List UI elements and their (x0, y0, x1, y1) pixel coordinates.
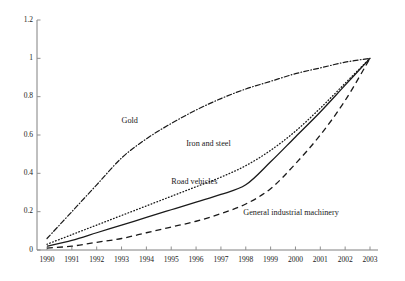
x-tick-label: 1991 (64, 255, 79, 264)
x-tick-label: 2000 (288, 255, 303, 264)
x-tick-label: 2002 (338, 255, 353, 264)
y-tick-label: 1.2 (24, 15, 34, 24)
annotation-road-vehicles: Road vehicles (171, 177, 217, 186)
x-tick-label: 1994 (139, 255, 154, 264)
x-tick-label: 1995 (164, 255, 179, 264)
y-axis: 00.20.40.60.811.2 (24, 15, 41, 254)
annotation-gold: Gold (122, 116, 138, 125)
y-tick-label: 0.6 (24, 130, 34, 139)
x-tick-label: 2001 (313, 255, 328, 264)
x-tick-label: 1996 (189, 255, 204, 264)
x-tick-label: 1992 (89, 255, 104, 264)
annotation-general-industrial-machinery: General industrial machinery (243, 208, 339, 217)
x-tick-label: 2003 (363, 255, 378, 264)
series-annotations: GoldIron and steelRoad vehiclesGeneral i… (122, 116, 340, 217)
x-tick-label: 1998 (238, 255, 253, 264)
x-tick-label: 1990 (40, 255, 55, 264)
x-tick-label: 1999 (263, 255, 278, 264)
x-tick-label: 1993 (114, 255, 129, 264)
annotation-iron-and-steel: Iron and steel (186, 139, 231, 148)
y-tick-label: 0 (29, 245, 33, 254)
y-tick-label: 0.4 (24, 168, 34, 177)
x-axis: 1990199119921993199419951996199719981999… (37, 247, 378, 265)
series-line-general-industrial-machinery (47, 58, 370, 248)
line-chart-svg: 00.20.40.60.811.2 1990199119921993199419… (0, 0, 405, 281)
y-tick-label: 0.2 (24, 206, 34, 215)
y-tick-label: 0.8 (24, 91, 34, 100)
x-tick-label: 1997 (213, 255, 228, 264)
chart-container: 00.20.40.60.811.2 1990199119921993199419… (0, 0, 405, 281)
y-tick-label: 1 (29, 53, 33, 62)
series-lines (47, 58, 370, 248)
